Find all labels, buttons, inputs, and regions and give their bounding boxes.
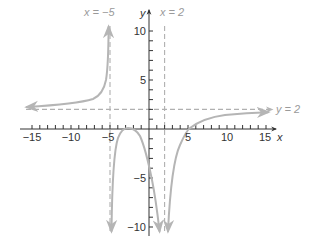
x-tick-label: −10 [62,131,81,143]
asymptote-label-x-neg5: x = −5 [83,6,115,18]
curve-right-branch [168,112,268,231]
x-tick-label: −5 [102,131,115,143]
x-tick-label: 5 [185,131,191,143]
x-tick-label: 10 [221,131,233,143]
y-axis-label: y [139,7,147,19]
y-tick-label: 5 [140,74,146,86]
asymptote-label-x-2: x = 2 [159,6,184,18]
x-tick-label: −15 [23,131,42,143]
rational-function-graph: −15 −10 −5 5 10 15 x 10 5 −5 −10 y x = −… [0,0,315,250]
y-tick-label: −5 [133,172,146,184]
tick-labels: −15 −10 −5 5 10 15 x 10 5 −5 −10 y x = −… [23,6,300,233]
y-tick-label: −10 [127,221,146,233]
x-tick-label: 15 [259,131,271,143]
y-tick-label: 10 [134,25,146,37]
asymptote-label-y-2: y = 2 [275,103,300,115]
x-axis [20,125,276,129]
curve-left-branch [27,27,109,107]
x-axis-label: x [276,131,283,143]
y-axis [149,10,153,236]
